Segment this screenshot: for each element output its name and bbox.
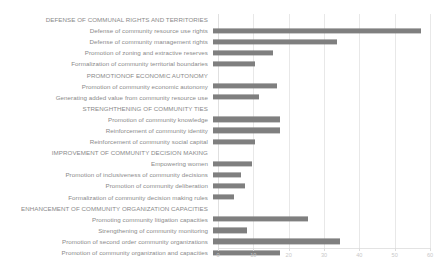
bar-cell bbox=[213, 147, 447, 158]
bar-cell bbox=[213, 69, 447, 80]
bar-row: Formalization of community territorial b… bbox=[0, 58, 447, 69]
chart-rows: DEFENSE OF COMMUNAL RIGHTS AND TERRITORI… bbox=[0, 14, 447, 248]
bar-label: Reinforcement of community identity bbox=[0, 127, 213, 134]
bar-row: Promotion of community deliberation bbox=[0, 180, 447, 191]
bar-label: Reinforcement of community social capita… bbox=[0, 138, 213, 145]
bar-label: Promotion of inclusiveness of community … bbox=[0, 171, 213, 178]
bar-row: Promoting community litigation capacitie… bbox=[0, 214, 447, 225]
bar bbox=[213, 139, 255, 144]
bar-label: Empowering women bbox=[0, 160, 213, 167]
bar bbox=[213, 61, 255, 66]
bar-cell bbox=[213, 236, 447, 247]
category-header-row: ENHANCEMENT OF COMMUNITY ORGANIZATION CA… bbox=[0, 203, 447, 214]
bar-cell bbox=[213, 192, 447, 203]
bar-cell bbox=[213, 114, 447, 125]
bar-cell bbox=[213, 92, 447, 103]
bar-label: Promotion of second order community orga… bbox=[0, 238, 213, 245]
bar-row: Defense of community resource use rights bbox=[0, 25, 447, 36]
bar-label: Defense of community resource use rights bbox=[0, 27, 213, 34]
bar-label: Formalization of community decision maki… bbox=[0, 194, 213, 201]
x-tick-label-40: 40 bbox=[356, 251, 362, 259]
category-header-label: STRENGHTHENING OF COMMUNITY TIES bbox=[0, 105, 213, 112]
bar-label: Promoting community litigation capacitie… bbox=[0, 216, 213, 223]
bar-cell bbox=[213, 125, 447, 136]
bar-row: Promotion of inclusiveness of community … bbox=[0, 169, 447, 180]
bar-cell bbox=[213, 203, 447, 214]
bar bbox=[213, 117, 280, 122]
bar-chart: DEFENSE OF COMMUNAL RIGHTS AND TERRITORI… bbox=[0, 0, 447, 268]
bar-label: Defense of community management rights bbox=[0, 38, 213, 45]
bar-cell bbox=[213, 25, 447, 36]
bar-row: Defense of community management rights bbox=[0, 36, 447, 47]
bar bbox=[213, 161, 252, 166]
category-header-label: ENHANCEMENT OF COMMUNITY ORGANIZATION CA… bbox=[0, 205, 213, 212]
bar-cell bbox=[213, 103, 447, 114]
bar-cell bbox=[213, 214, 447, 225]
bar bbox=[213, 50, 273, 55]
category-header-row: PROMOTIONOF ECONOMIC AUTONOMY bbox=[0, 69, 447, 80]
bar bbox=[213, 128, 280, 133]
category-header-label: PROMOTIONOF ECONOMIC AUTONOMY bbox=[0, 72, 213, 79]
x-tick-label-30: 30 bbox=[321, 251, 327, 259]
bar-cell bbox=[213, 136, 447, 147]
bar-cell bbox=[213, 58, 447, 69]
bar bbox=[213, 28, 421, 33]
bar bbox=[213, 217, 308, 222]
x-tick-label-20: 20 bbox=[286, 251, 292, 259]
bar-cell bbox=[213, 169, 447, 180]
bar-label: Promotion of community knowledge bbox=[0, 116, 213, 123]
bar bbox=[213, 39, 337, 44]
bar bbox=[213, 172, 241, 177]
bar-row: Strengthening of community monitoring bbox=[0, 225, 447, 236]
bar-label: Promotion of zoning and extractive reser… bbox=[0, 49, 213, 56]
category-header-label: IMPROVEMENT OF COMMUNITY DECISION MAKING bbox=[0, 149, 213, 156]
bar-cell bbox=[213, 81, 447, 92]
x-tick-label-50: 50 bbox=[392, 251, 398, 259]
x-tick-label-60: 60 bbox=[427, 251, 433, 259]
x-tick-label-10: 10 bbox=[250, 251, 256, 259]
bar-label: Strengthening of community monitoring bbox=[0, 227, 213, 234]
bar-row: Empowering women bbox=[0, 158, 447, 169]
bar bbox=[213, 228, 247, 233]
bar-cell bbox=[213, 158, 447, 169]
bar-row: Promotion of community knowledge bbox=[0, 114, 447, 125]
x-axis: 0102030405060 bbox=[218, 248, 430, 262]
bar-label: Promotion of community organization and … bbox=[0, 249, 213, 256]
bar bbox=[213, 183, 245, 188]
bar-row: Promotion of community economic autonomy bbox=[0, 81, 447, 92]
bar-cell bbox=[213, 225, 447, 236]
bar bbox=[213, 194, 234, 199]
bar-label: Promotion of community deliberation bbox=[0, 182, 213, 189]
bar-row: Reinforcement of community identity bbox=[0, 125, 447, 136]
bar-row: Promotion of second order community orga… bbox=[0, 236, 447, 247]
bar-label: Formalization of community territorial b… bbox=[0, 60, 213, 67]
bar-label: Promotion of community economic autonomy bbox=[0, 83, 213, 90]
bar-row: Generating added value from community re… bbox=[0, 92, 447, 103]
bar-label: Generating added value from community re… bbox=[0, 94, 213, 101]
bar bbox=[213, 84, 277, 89]
bar-row: Promotion of zoning and extractive reser… bbox=[0, 47, 447, 58]
category-header-row: IMPROVEMENT OF COMMUNITY DECISION MAKING bbox=[0, 147, 447, 158]
bar-cell bbox=[213, 180, 447, 191]
category-header-row: DEFENSE OF COMMUNAL RIGHTS AND TERRITORI… bbox=[0, 14, 447, 25]
bar-row: Formalization of community decision maki… bbox=[0, 192, 447, 203]
x-tick-label-0: 0 bbox=[216, 251, 219, 259]
bar bbox=[213, 95, 259, 100]
bar-cell bbox=[213, 47, 447, 58]
bar bbox=[213, 239, 340, 244]
bar-cell bbox=[213, 14, 447, 25]
bar-cell bbox=[213, 36, 447, 47]
category-header-label: DEFENSE OF COMMUNAL RIGHTS AND TERRITORI… bbox=[0, 16, 213, 23]
category-header-row: STRENGHTHENING OF COMMUNITY TIES bbox=[0, 103, 447, 114]
bar-row: Reinforcement of community social capita… bbox=[0, 136, 447, 147]
